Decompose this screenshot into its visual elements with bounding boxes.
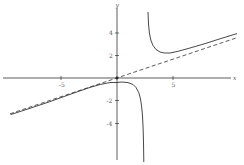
slant-asymptote-line xyxy=(10,38,237,114)
y-tick-label-4: 4 xyxy=(109,29,113,36)
curve-left-branch xyxy=(11,82,144,162)
x-tick-label-5: 5 xyxy=(172,81,176,88)
curve-right-branch xyxy=(148,12,237,53)
y-tick-label-2: 2 xyxy=(109,52,113,59)
y-tick-label-neg2: -2 xyxy=(107,97,113,104)
function-plot: -5 5 4 2 -2 -4 x y xyxy=(0,0,244,165)
y-axis-label: y xyxy=(115,1,120,9)
y-tick-label-neg4: -4 xyxy=(107,120,113,127)
origin-point xyxy=(116,77,119,80)
x-tick-label-neg5: -5 xyxy=(59,81,65,88)
x-axis-label: x xyxy=(233,74,237,81)
